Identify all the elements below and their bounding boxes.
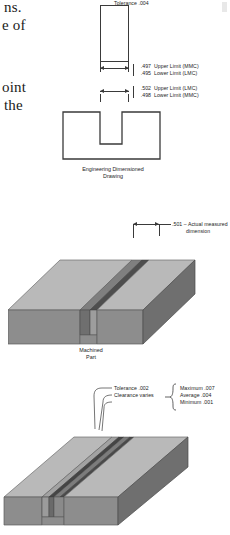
arrowhead-right-icon [125,89,129,93]
shaft-upper-limit-value: .497 [136,63,151,69]
body-text-fragment: e of [2,17,26,34]
actual-dimension-annotation: .501 – Actual measured [172,221,228,227]
callout-leader-line [133,64,134,76]
arrowhead-left-icon [100,66,104,70]
clearance-maximum: Maximum .007 [180,385,215,391]
arrowhead-right-icon [125,66,129,70]
tolerance-note-1: Tolerance .002 [114,385,149,391]
body-text-fragment: ns. [4,0,22,16]
slot-lower-limit-label: Lower Limit (MMC) [154,92,199,98]
actual-dimension-label-line1: Actual measured [188,221,228,227]
body-text-fragment: the [4,97,23,114]
assembled-fit-isometric [2,415,207,535]
slot-width-dimension-arrow [100,89,129,94]
tolerance-note-3: Tolerance .004 [114,0,149,6]
shaft-upper-limit-label: Upper Limit (MMC) [154,63,199,69]
figure1-caption-line2: Drawing [58,173,168,180]
clearance-average: Average .004 [180,392,211,398]
slotted-block-profile [62,99,162,161]
tolerance-note-2: Clearance varies [114,392,154,398]
annotation-leader-line [159,224,171,225]
machined-part-isometric [8,232,208,347]
figure2-caption: Machined Part [56,347,126,361]
annotation-dash: – [184,221,187,227]
slot-upper-limit-callout: .502Upper Limit (LMC) [136,85,197,91]
shaft-lower-limit-value: .495 [136,70,151,76]
slot-lower-limit-callout: .498Lower Limit (MMC) [136,92,199,98]
slot-upper-limit-value: .502 [136,85,151,91]
figure-page: ns. e of oint the .497Upper Limit (MMC) … [0,0,230,535]
clearance-minimum: Minimum .001 [180,399,213,405]
arrowhead-left-icon [100,89,104,93]
figure2-caption-line1: Machined [56,347,126,354]
shaft-profile-rectangle [100,5,129,62]
slot-lower-limit-value: .498 [136,92,151,98]
shaft-width-dimension-arrow [100,66,129,71]
figure1-caption-line1: Engineering Dimensioned [58,166,168,173]
slot-upper-limit-label: Upper Limit (LMC) [154,85,197,91]
shaft-lower-limit-callout: .495Lower Limit (LMC) [136,70,197,76]
figure2-caption-line2: Part [56,354,126,361]
body-text-fragment: oint [2,79,26,96]
figure1-caption: Engineering Dimensioned Drawing [58,166,168,180]
shaft-lower-limit-label: Lower Limit (LMC) [154,70,197,76]
actual-dimension-value: .501 [172,221,182,227]
shaft-upper-limit-callout: .497Upper Limit (MMC) [136,63,199,69]
callout-leader-line [133,86,134,98]
actual-dimension-arrow [133,222,159,227]
clearance-range-bracket [165,383,179,411]
scan-artifact [222,2,227,12]
